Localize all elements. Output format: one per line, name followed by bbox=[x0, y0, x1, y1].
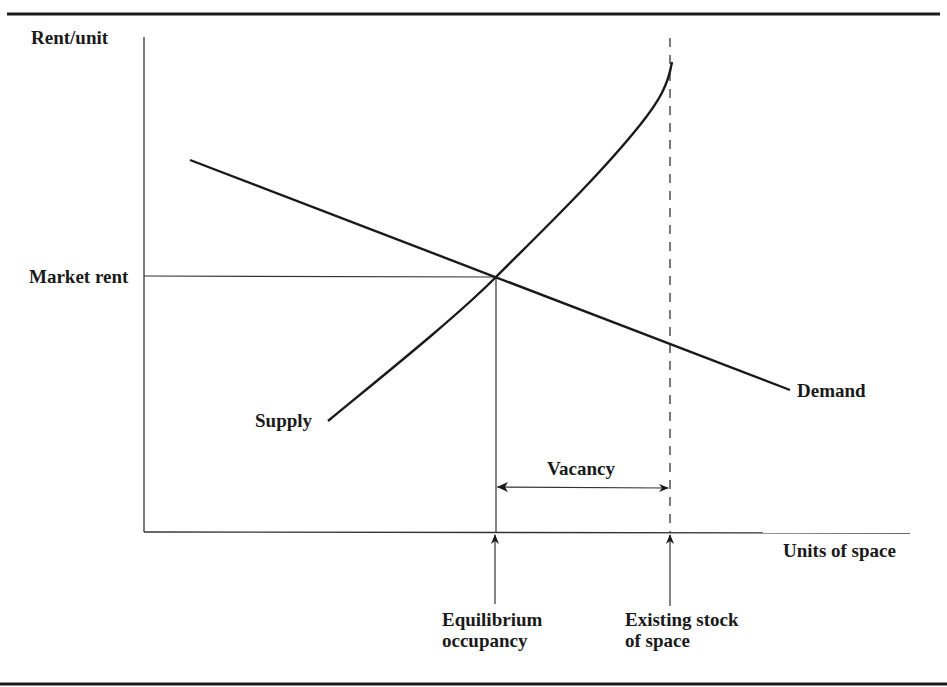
vacancy-label: Vacancy bbox=[547, 458, 615, 480]
supply-label: Supply bbox=[255, 410, 312, 432]
supply-demand-diagram: Rent/unit Market rent Supply Demand Vaca… bbox=[0, 0, 947, 687]
vacancy-arrow bbox=[497, 487, 668, 488]
x-axis-label: Units of space bbox=[783, 540, 896, 562]
existing-stock-label: Existing stock of space bbox=[625, 609, 739, 651]
supply-curve bbox=[328, 62, 672, 421]
demand-label: Demand bbox=[797, 380, 866, 402]
market-rent-label: Market rent bbox=[29, 266, 128, 288]
y-axis-label: Rent/unit bbox=[31, 27, 108, 49]
equilibrium-label-line2: occupancy bbox=[442, 630, 542, 651]
x-axis bbox=[144, 532, 910, 533]
market-rent-line bbox=[144, 276, 496, 277]
stock-label-line1: Existing stock bbox=[625, 609, 739, 630]
equilibrium-label-line1: Equilibrium bbox=[442, 609, 542, 630]
diagram-canvas bbox=[0, 0, 947, 687]
equilibrium-occupancy-label: Equilibrium occupancy bbox=[442, 609, 542, 651]
demand-curve bbox=[190, 160, 790, 390]
stock-label-line2: of space bbox=[625, 630, 739, 651]
